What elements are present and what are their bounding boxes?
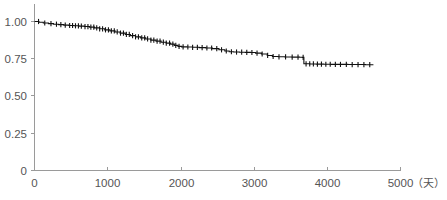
y-tick-marks: [31, 22, 35, 171]
x-axis-labels: 0 1000 2000 3000 4000 5000 （天）: [31, 177, 445, 190]
x-tick-label-2: 1000: [95, 177, 121, 189]
censoring-marks: [39, 19, 370, 67]
x-tick-label-4: 3000: [242, 177, 268, 189]
survival-chart: 1.00 0.75 0.50 0.25 0 0 1000 2000 3000 4…: [0, 0, 447, 200]
axis-group: [31, 4, 402, 171]
y-tick-label-5: 0: [21, 165, 27, 177]
x-tick-marks: [35, 167, 401, 171]
x-tick-label-3: 2000: [169, 177, 195, 189]
x-tick-label-1: 0: [31, 177, 37, 189]
x-tick-label-5: 4000: [315, 177, 341, 189]
x-tick-label-6: 5000: [388, 177, 414, 189]
y-tick-label-2: 0.75: [5, 53, 27, 65]
y-tick-label-3: 0.50: [5, 90, 27, 102]
y-tick-label-1: 1.00: [5, 16, 27, 28]
y-tick-label-4: 0.25: [5, 128, 27, 140]
x-axis-unit-label: （天）: [412, 177, 445, 190]
kaplan-meier-plot: 1.00 0.75 0.50 0.25 0 0 1000 2000 3000 4…: [0, 0, 447, 200]
y-axis-labels: 1.00 0.75 0.50 0.25 0: [5, 16, 27, 177]
